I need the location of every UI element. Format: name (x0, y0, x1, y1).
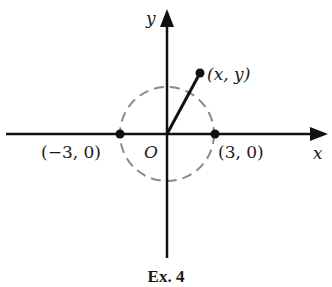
coordinate-diagram: y x O (−3, 0) (3, 0) (x, y) Ex. 4 (0, 0, 332, 287)
radius-segment (167, 73, 200, 134)
y-axis-arrow-icon (160, 9, 174, 27)
origin-label: O (144, 142, 158, 162)
y-axis-label: y (145, 8, 156, 28)
x-axis-label: x (313, 143, 323, 163)
x-axis-arrow-icon (310, 127, 328, 141)
point-label-x-y: (x, y) (207, 64, 250, 84)
point-3-0 (211, 130, 220, 139)
point-neg3-0 (116, 130, 125, 139)
point-label-neg3-0: (−3, 0) (41, 142, 101, 162)
caption: Ex. 4 (148, 267, 185, 286)
point-x-y (196, 69, 205, 78)
point-label-3-0: (3, 0) (218, 142, 264, 162)
